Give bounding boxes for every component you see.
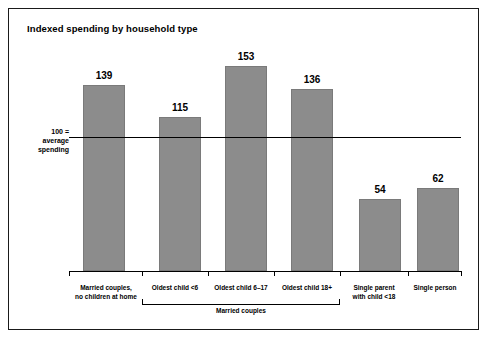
category-label-line-1: Married couples, bbox=[65, 284, 147, 293]
average-reference-line bbox=[69, 137, 461, 138]
bar-single-parent bbox=[359, 199, 401, 271]
category-label-oldest-child-18-plus: Oldest child 18+ bbox=[271, 284, 343, 293]
bar-oldest-child-under-6 bbox=[159, 117, 201, 271]
axis-tick bbox=[69, 271, 70, 276]
bar-value-married-no-children: 139 bbox=[83, 70, 125, 81]
average-label-line-3: spending bbox=[23, 145, 69, 154]
bar-married-no-children bbox=[83, 85, 125, 271]
category-label-married-no-children: Married couples, no children at home bbox=[65, 284, 147, 301]
category-label-oldest-child-6-17: Oldest child 6–17 bbox=[205, 284, 277, 293]
category-label-single-parent: Single parent with child <18 bbox=[339, 284, 409, 301]
average-label-line-2: average bbox=[23, 136, 69, 145]
bar-single-person bbox=[417, 188, 459, 271]
bar-value-oldest-child-6-17: 153 bbox=[225, 51, 267, 62]
category-label-line-1: Single parent bbox=[339, 284, 409, 293]
axis-tick bbox=[461, 271, 462, 276]
axis-tick bbox=[142, 271, 143, 276]
category-label-single-person: Single person bbox=[407, 284, 463, 293]
group-bracket-label: Married couples bbox=[142, 307, 340, 314]
average-label-line-1: 100 = bbox=[23, 127, 69, 136]
chart-title: Indexed spending by household type bbox=[27, 23, 198, 34]
bar-oldest-child-18-plus bbox=[291, 89, 333, 271]
category-label-line-1: Oldest child <6 bbox=[139, 284, 211, 293]
category-label-line-2: no children at home bbox=[65, 293, 147, 302]
group-bracket bbox=[142, 299, 340, 305]
category-label-line-1: Single person bbox=[407, 284, 463, 293]
category-label-oldest-child-under-6: Oldest child <6 bbox=[139, 284, 211, 293]
axis-tick bbox=[208, 271, 209, 276]
bar-value-oldest-child-under-6: 115 bbox=[159, 102, 201, 113]
plot-area: 139 115 153 136 54 62 bbox=[69, 43, 461, 271]
category-label-line-1: Oldest child 6–17 bbox=[205, 284, 277, 293]
bar-value-single-parent: 54 bbox=[359, 184, 401, 195]
bar-value-oldest-child-18-plus: 136 bbox=[291, 74, 333, 85]
axis-tick bbox=[274, 271, 275, 276]
bar-value-single-person: 62 bbox=[417, 173, 459, 184]
bar-oldest-child-6-17 bbox=[225, 66, 267, 271]
category-label-line-2: with child <18 bbox=[339, 293, 409, 302]
category-label-line-1: Oldest child 18+ bbox=[271, 284, 343, 293]
average-reference-label: 100 = average spending bbox=[23, 127, 69, 154]
axis-tick bbox=[408, 271, 409, 276]
axis-tick bbox=[340, 271, 341, 276]
x-axis-line bbox=[69, 271, 461, 272]
chart-frame: Indexed spending by household type 139 1… bbox=[8, 8, 479, 330]
